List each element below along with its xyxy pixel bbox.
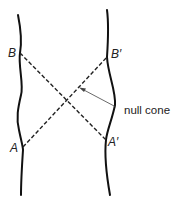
label-b: B	[8, 46, 16, 60]
label-b-prime: B′	[111, 47, 122, 61]
null-ray-a-to-b-prime	[23, 57, 107, 147]
callout-arrow-icon	[79, 88, 116, 108]
null-ray-b-to-a-prime	[20, 53, 106, 140]
label-a: A	[9, 141, 18, 155]
null-cone-label: null cone	[124, 104, 170, 116]
null-cone-diagram: B A B′ A′ null cone	[0, 0, 172, 205]
label-a-prime: A′	[107, 135, 119, 149]
left-worldline	[18, 15, 23, 195]
